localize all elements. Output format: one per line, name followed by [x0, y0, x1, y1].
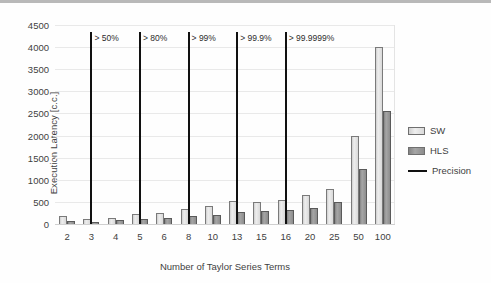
y-tick-label: 3000 [28, 86, 49, 97]
bar-group [128, 25, 152, 224]
bar-sw[interactable] [229, 201, 237, 224]
bar-hls[interactable] [261, 211, 269, 224]
chart-legend: SWHLSPrecision [408, 125, 471, 176]
bar-group [79, 25, 103, 224]
y-tick-label: 500 [33, 196, 49, 207]
y-tick-label: 3500 [28, 64, 49, 75]
bar-sw[interactable] [278, 200, 286, 224]
bar-sw[interactable] [205, 206, 213, 224]
bar-sw[interactable] [302, 195, 310, 224]
legend-swatch-icon [408, 147, 425, 155]
plot-right-edge [394, 25, 395, 224]
bar-sw[interactable] [132, 214, 140, 224]
bar-hls[interactable] [140, 219, 148, 224]
legend-item[interactable]: SW [408, 125, 471, 136]
bar-hls[interactable] [213, 215, 221, 225]
y-tick-label: 1000 [28, 174, 49, 185]
bar-hls[interactable] [91, 222, 99, 224]
bar-hls[interactable] [383, 111, 391, 224]
plot-area: > 50%> 80%> 99%> 99.9%> 99.9999% [55, 25, 395, 224]
x-tick-label: 2 [55, 231, 79, 242]
taylor-series-latency-chart: Execution Latency [c.c.] 050010001500200… [0, 0, 491, 283]
bar-group [371, 25, 395, 224]
bar-group [176, 25, 200, 224]
bar-group [201, 25, 225, 224]
legend-swatch-icon [408, 127, 425, 135]
bar-sw[interactable] [108, 218, 116, 224]
y-tick-label: 4500 [28, 20, 49, 31]
x-tick-label: 25 [322, 231, 346, 242]
x-tick-label: 8 [176, 231, 200, 242]
bar-hls[interactable] [286, 210, 294, 224]
x-tick-label: 20 [298, 231, 322, 242]
y-axis-tick-labels: 050010001500200025003000350040004500 [0, 25, 55, 224]
y-tick-label: 0 [44, 219, 49, 230]
legend-item[interactable]: HLS [408, 145, 471, 156]
bar-hls[interactable] [237, 212, 245, 224]
x-tick-label: 3 [79, 231, 103, 242]
bar-group [346, 25, 370, 224]
bar-sw[interactable] [253, 202, 261, 224]
bar-hls[interactable] [67, 221, 75, 224]
bar-sw[interactable] [351, 136, 359, 224]
legend-line-icon [408, 170, 427, 172]
bar-sw[interactable] [181, 209, 189, 224]
bar-sw[interactable] [83, 219, 91, 224]
legend-item[interactable]: Precision [408, 165, 471, 176]
y-tick-label: 1500 [28, 152, 49, 163]
legend-label: Precision [432, 165, 471, 176]
bars-layer [55, 25, 395, 224]
bar-hls[interactable] [334, 202, 342, 224]
bar-hls[interactable] [310, 208, 318, 224]
bar-hls[interactable] [164, 218, 172, 224]
bar-group [322, 25, 346, 224]
x-tick-label: 6 [152, 231, 176, 242]
bar-group [225, 25, 249, 224]
x-tick-label: 100 [371, 231, 395, 242]
legend-label: HLS [430, 145, 448, 156]
bar-group [55, 25, 79, 224]
bar-hls[interactable] [359, 169, 367, 224]
x-tick-label: 4 [104, 231, 128, 242]
bar-group [249, 25, 273, 224]
bar-group [104, 25, 128, 224]
x-tick-label: 15 [249, 231, 273, 242]
bar-hls[interactable] [189, 216, 197, 224]
bar-group [274, 25, 298, 224]
bar-group [152, 25, 176, 224]
gridline [55, 224, 395, 225]
x-tick-label: 13 [225, 231, 249, 242]
x-tick-label: 5 [128, 231, 152, 242]
y-tick-label: 4000 [28, 42, 49, 53]
bar-sw[interactable] [156, 213, 164, 224]
bar-sw[interactable] [326, 189, 334, 224]
legend-label: SW [430, 125, 445, 136]
x-tick-label: 50 [346, 231, 370, 242]
bar-group [298, 25, 322, 224]
bar-hls[interactable] [116, 220, 124, 224]
x-axis-tick-labels: 23456810131516202550100 [55, 231, 395, 242]
y-tick-label: 2000 [28, 130, 49, 141]
x-axis-title: Number of Taylor Series Terms [55, 261, 395, 272]
x-tick-label: 16 [274, 231, 298, 242]
bar-sw[interactable] [59, 216, 67, 224]
bar-sw[interactable] [375, 47, 383, 224]
y-tick-label: 2500 [28, 108, 49, 119]
x-tick-label: 10 [201, 231, 225, 242]
